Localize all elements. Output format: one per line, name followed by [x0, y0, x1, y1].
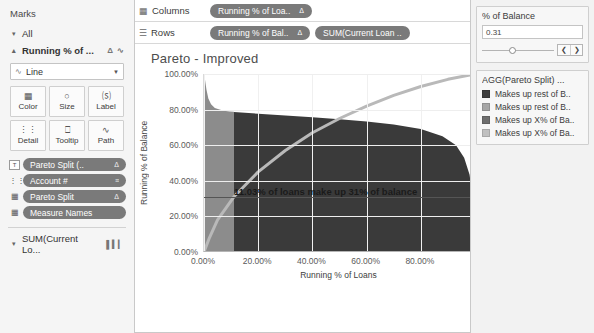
chart-plot[interactable]: 11.03% of loans make up 31% of balance	[203, 74, 470, 252]
filter-card-title: % of Balance	[482, 11, 583, 21]
filter-slider[interactable]	[482, 50, 554, 51]
sum-card-label: SUM(Current Lo...	[22, 233, 98, 255]
x-axis-tick: 40.00%	[297, 256, 326, 266]
page-title: Pareto - Improved	[135, 44, 470, 66]
tooltip-icon: ⎕	[65, 126, 70, 135]
legend-color-swatch	[482, 103, 490, 111]
y-axis-left-title: Running % of Balance	[139, 88, 149, 238]
filter-prev-button[interactable]: ❮	[558, 45, 570, 55]
path-button-label: Path	[98, 136, 114, 145]
marks-pill-item[interactable]: ▦ Pareto Split Δ	[8, 190, 126, 203]
mark-type-dropdown[interactable]: ∿ Line ▼	[10, 63, 124, 80]
tooltip-button-label: Tooltip	[55, 136, 78, 145]
marks-card-title: Marks	[8, 6, 126, 25]
pill-pareto-split-calc[interactable]: Pareto Split (.. Δ	[23, 158, 126, 171]
legend-color-swatch	[482, 116, 490, 124]
path-icon: ∿	[102, 126, 110, 135]
detail-button[interactable]: ⋮⋮ Detail	[10, 120, 46, 151]
legend-item[interactable]: Makes up rest of B..	[482, 102, 583, 112]
marks-pill-item[interactable]: ⋮⋮ Account # ≡	[8, 174, 126, 187]
filter-next-button[interactable]: ❯	[570, 45, 582, 55]
size-button[interactable]: ○ Size	[49, 86, 85, 117]
area-series-0	[204, 74, 234, 252]
pill-label: Running % of Bal..	[218, 28, 288, 38]
rows-pill-sum-current-loan[interactable]: SUM(Current Loan ..	[315, 26, 409, 40]
sort-icon: ≡	[115, 177, 119, 184]
columns-shelf[interactable]: ▦ Columns Running % of Loa.. Δ	[135, 0, 470, 22]
rows-shelf[interactable]: ☰ Rows Running % of Bal.. Δ SUM(Current …	[135, 22, 470, 44]
gridline-vertical	[258, 74, 259, 251]
marks-shelf-buttons: ▦ Color ○ Size ⒮ Label ⋮⋮ Detail ⎕ Toolt…	[10, 86, 124, 151]
delta-icon: Δ	[297, 29, 302, 36]
marks-pill-item[interactable]: ▦ Measure Names	[8, 206, 126, 219]
legend-item-label: Makes up rest of B..	[495, 89, 571, 99]
x-axis-tick: 60.00%	[351, 256, 380, 266]
color-pill-icon: ▦	[9, 208, 20, 218]
marks-active-card-row[interactable]: ▴ Running % of ... Δ ∿	[8, 42, 126, 59]
label-button[interactable]: ⒮ Label	[88, 86, 124, 117]
path-button[interactable]: ∿ Path	[88, 120, 124, 151]
cards-panel: % of Balance 0.31 ❮ ❯ AGG(Pareto Split) …	[470, 0, 594, 333]
worksheet-center: ▦ Columns Running % of Loa.. Δ ☰ Rows Ru…	[135, 0, 470, 333]
color-button[interactable]: ▦ Color	[10, 86, 46, 117]
y-axis-left-ticks: 0.00%20.00%40.00%60.00%80.00%100.00%	[152, 70, 198, 252]
gridline-vertical	[367, 74, 368, 251]
gridline-horizontal	[204, 181, 470, 182]
gridline-vertical	[312, 74, 313, 251]
x-axis-tick: 0.00%	[191, 256, 215, 266]
pill-label: Measure Names	[30, 208, 92, 218]
legend-item[interactable]: Makes up X% of Ba..	[482, 128, 583, 138]
pill-account-number[interactable]: Account # ≡	[23, 174, 126, 187]
legend-color-swatch	[482, 129, 490, 137]
columns-pill-running-pct-loans[interactable]: Running % of Loa.. Δ	[210, 4, 312, 18]
legend-color-swatch	[482, 90, 490, 98]
y-axis-left-tick: 20.00%	[152, 211, 198, 221]
y-axis-left-tick: 100.00%	[152, 69, 198, 79]
pill-measure-names[interactable]: Measure Names	[23, 206, 126, 219]
legend-title: AGG(Pareto Split) ...	[482, 75, 583, 85]
gridline-horizontal	[204, 145, 470, 146]
pill-label: Running % of Loa..	[218, 6, 290, 16]
chevron-down-icon: ▼	[113, 69, 119, 75]
marks-card-sum-current-loan[interactable]: ▾ SUM(Current Lo... ▌▍▎	[8, 228, 126, 260]
columns-label: Columns	[152, 5, 190, 16]
filter-value-field[interactable]: 0.31	[482, 25, 583, 39]
delta-icon: Δ	[114, 193, 119, 200]
rows-pill-running-pct-balance[interactable]: Running % of Bal.. Δ	[210, 26, 310, 40]
rows-label: Rows	[151, 27, 175, 38]
pill-pareto-split[interactable]: Pareto Split Δ	[23, 190, 126, 203]
area-series-1	[234, 112, 470, 252]
legend-item[interactable]: Makes up X% of Ba..	[482, 115, 583, 125]
bar-chart-icon: ▌▍▎	[106, 240, 124, 249]
mark-type-value: Line	[26, 67, 43, 77]
line-icon: ∿	[117, 46, 124, 55]
pill-label: Pareto Split (..	[30, 160, 84, 170]
chart-annotation: 11.03% of loans make up 31% of balance	[234, 186, 417, 197]
filter-slider-handle[interactable]	[509, 47, 516, 54]
columns-icon: ▦	[139, 6, 148, 16]
chevron-up-icon: ▴	[10, 47, 18, 55]
annotation-rule	[204, 197, 470, 198]
detail-pill-icon: ⋮⋮	[9, 176, 20, 186]
rows-shelf-label-group: ☰ Rows	[139, 27, 205, 38]
tooltip-button[interactable]: ⎕ Tooltip	[49, 120, 85, 151]
filter-slider-row: ❮ ❯	[482, 44, 583, 56]
x-axis-ticks: 0.00%20.00%40.00%60.00%80.00%	[203, 256, 470, 268]
color-palette-icon: ▦	[24, 92, 33, 101]
line-mark-icon: ∿	[15, 67, 22, 76]
marks-card-panel: Marks ▾ All ▴ Running % of ... Δ ∿ ∿ Lin…	[0, 0, 135, 333]
y-axis-left-tick: 60.00%	[152, 140, 198, 150]
legend-item-label: Makes up X% of Ba..	[495, 128, 574, 138]
chevron-down-icon: ▾	[10, 240, 18, 248]
marks-pill-item[interactable]: T Pareto Split (.. Δ	[8, 158, 126, 171]
gridline-horizontal	[204, 74, 470, 75]
color-legend-card: AGG(Pareto Split) ... Makes up rest of B…	[476, 70, 589, 145]
rows-icon: ☰	[139, 28, 147, 38]
marks-all-row[interactable]: ▾ All	[8, 25, 126, 42]
filter-value-text: 0.31	[486, 28, 502, 37]
color-pill-icon: ▦	[9, 192, 20, 202]
marks-active-card-label: Running % of ...	[22, 45, 94, 56]
legend-item[interactable]: Makes up rest of B..	[482, 89, 583, 99]
label-pill-icon: T	[9, 160, 20, 170]
plot-area-wrapper: Running % of Balance Current Loan Balanc…	[135, 70, 470, 332]
